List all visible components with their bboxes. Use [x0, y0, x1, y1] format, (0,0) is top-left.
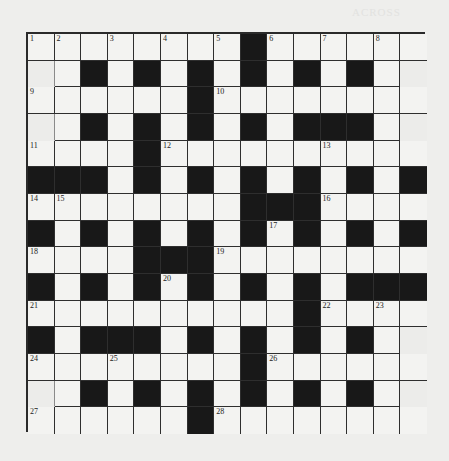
- answer-square[interactable]: [55, 354, 82, 381]
- answer-square[interactable]: 17: [267, 221, 294, 248]
- answer-square[interactable]: [55, 114, 82, 141]
- answer-square[interactable]: [214, 301, 241, 328]
- answer-square[interactable]: [267, 301, 294, 328]
- answer-square[interactable]: [374, 407, 401, 434]
- answer-square[interactable]: [81, 407, 108, 434]
- answer-square[interactable]: [108, 141, 135, 168]
- answer-square[interactable]: 4: [161, 34, 188, 61]
- answer-square[interactable]: [374, 354, 401, 381]
- answer-square[interactable]: [294, 87, 321, 114]
- answer-square[interactable]: [108, 407, 135, 434]
- answer-square[interactable]: [134, 34, 161, 61]
- answer-square[interactable]: [161, 381, 188, 408]
- answer-square[interactable]: 1: [28, 34, 55, 61]
- answer-square[interactable]: [267, 381, 294, 408]
- answer-square[interactable]: [214, 221, 241, 248]
- answer-square[interactable]: [241, 247, 268, 274]
- answer-square[interactable]: [374, 221, 401, 248]
- answer-square[interactable]: [267, 247, 294, 274]
- answer-square[interactable]: [55, 407, 82, 434]
- answer-square[interactable]: [161, 327, 188, 354]
- answer-square[interactable]: [161, 61, 188, 88]
- answer-square[interactable]: [347, 141, 374, 168]
- answer-square[interactable]: 21: [28, 301, 55, 328]
- answer-square[interactable]: [241, 407, 268, 434]
- answer-square[interactable]: 28: [214, 407, 241, 434]
- answer-square[interactable]: [374, 247, 401, 274]
- answer-square[interactable]: 27: [28, 407, 55, 434]
- answer-square[interactable]: [321, 221, 348, 248]
- answer-square[interactable]: [55, 327, 82, 354]
- answer-square[interactable]: [400, 141, 427, 168]
- answer-square[interactable]: [347, 34, 374, 61]
- answer-square[interactable]: 15: [55, 194, 82, 221]
- answer-square[interactable]: 3: [108, 34, 135, 61]
- answer-square[interactable]: 26: [267, 354, 294, 381]
- answer-square[interactable]: [347, 87, 374, 114]
- answer-square[interactable]: [55, 141, 82, 168]
- answer-square[interactable]: [347, 194, 374, 221]
- answer-square[interactable]: [188, 301, 215, 328]
- answer-square[interactable]: [294, 141, 321, 168]
- answer-square[interactable]: [400, 247, 427, 274]
- answer-square[interactable]: [214, 114, 241, 141]
- answer-square[interactable]: [108, 61, 135, 88]
- answer-square[interactable]: 14: [28, 194, 55, 221]
- answer-square[interactable]: [374, 141, 401, 168]
- answer-square[interactable]: [81, 247, 108, 274]
- answer-square[interactable]: [400, 301, 427, 328]
- answer-square[interactable]: [55, 61, 82, 88]
- answer-square[interactable]: [374, 167, 401, 194]
- answer-square[interactable]: [161, 407, 188, 434]
- answer-square[interactable]: 25: [108, 354, 135, 381]
- answer-square[interactable]: [108, 194, 135, 221]
- answer-square[interactable]: [161, 301, 188, 328]
- answer-square[interactable]: [374, 194, 401, 221]
- answer-square[interactable]: [81, 194, 108, 221]
- answer-square[interactable]: [108, 87, 135, 114]
- answer-square[interactable]: [134, 194, 161, 221]
- answer-square[interactable]: [267, 61, 294, 88]
- answer-square[interactable]: [81, 87, 108, 114]
- answer-square[interactable]: [108, 167, 135, 194]
- answer-square[interactable]: [294, 354, 321, 381]
- answer-square[interactable]: [108, 381, 135, 408]
- answer-square[interactable]: [81, 141, 108, 168]
- answer-square[interactable]: [161, 221, 188, 248]
- answer-square[interactable]: [214, 141, 241, 168]
- answer-square[interactable]: [241, 87, 268, 114]
- answer-square[interactable]: [161, 354, 188, 381]
- answer-square[interactable]: [321, 274, 348, 301]
- answer-square[interactable]: [161, 87, 188, 114]
- answer-square[interactable]: 7: [321, 34, 348, 61]
- answer-square[interactable]: [55, 381, 82, 408]
- answer-square[interactable]: [321, 354, 348, 381]
- answer-square[interactable]: 6: [267, 34, 294, 61]
- answer-square[interactable]: [214, 61, 241, 88]
- answer-square[interactable]: [374, 327, 401, 354]
- answer-square[interactable]: [188, 194, 215, 221]
- answer-square[interactable]: [347, 354, 374, 381]
- answer-square[interactable]: [321, 167, 348, 194]
- answer-square[interactable]: 9: [28, 87, 55, 114]
- answer-square[interactable]: [108, 274, 135, 301]
- answer-square[interactable]: [214, 354, 241, 381]
- answer-square[interactable]: 8: [374, 34, 401, 61]
- answer-square[interactable]: [267, 141, 294, 168]
- answer-square[interactable]: [188, 354, 215, 381]
- answer-square[interactable]: [214, 327, 241, 354]
- answer-square[interactable]: [161, 114, 188, 141]
- answer-square[interactable]: [108, 247, 135, 274]
- answer-square[interactable]: [294, 34, 321, 61]
- answer-square[interactable]: [321, 61, 348, 88]
- answer-square[interactable]: [374, 114, 401, 141]
- answer-square[interactable]: [188, 34, 215, 61]
- answer-square[interactable]: [267, 274, 294, 301]
- answer-square[interactable]: [134, 301, 161, 328]
- answer-square[interactable]: [161, 194, 188, 221]
- answer-square[interactable]: [55, 247, 82, 274]
- answer-square[interactable]: [161, 167, 188, 194]
- answer-square[interactable]: [108, 221, 135, 248]
- answer-square[interactable]: [214, 381, 241, 408]
- answer-square[interactable]: [400, 87, 427, 114]
